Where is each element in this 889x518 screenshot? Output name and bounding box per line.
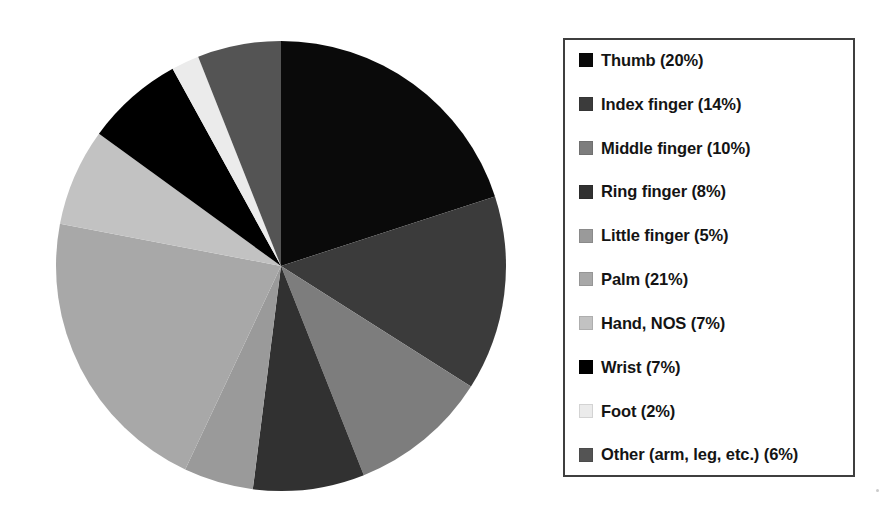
legend-item-label: Palm (21%) xyxy=(601,271,688,288)
legend-item-label: Ring finger (8%) xyxy=(601,183,726,200)
pie-svg xyxy=(55,40,507,493)
legend-item[interactable]: Other (arm, leg, etc.) (6%) xyxy=(579,446,843,463)
legend-item[interactable]: Thumb (20%) xyxy=(579,52,843,69)
legend-swatch-icon xyxy=(579,360,593,374)
pie-chart-figure: Thumb (20%)Index finger (14%)Middle fing… xyxy=(0,0,889,518)
legend-swatch-icon xyxy=(579,316,593,330)
chart-legend: Thumb (20%)Index finger (14%)Middle fing… xyxy=(563,38,855,477)
legend-item[interactable]: Foot (2%) xyxy=(579,403,843,420)
legend-swatch-icon xyxy=(579,272,593,286)
legend-item[interactable]: Ring finger (8%) xyxy=(579,183,843,200)
pie-slice-group xyxy=(56,41,506,491)
legend-swatch-icon xyxy=(579,141,593,155)
legend-item[interactable]: Hand, NOS (7%) xyxy=(579,315,843,332)
pie-chart-plot-area xyxy=(55,40,507,493)
legend-item-label: Little finger (5%) xyxy=(601,227,728,244)
legend-item[interactable]: Middle finger (10%) xyxy=(579,140,843,157)
legend-item-label: Wrist (7%) xyxy=(601,359,680,376)
legend-item-label: Other (arm, leg, etc.) (6%) xyxy=(601,446,798,463)
legend-item-label: Index finger (14%) xyxy=(601,96,741,113)
legend-swatch-icon xyxy=(579,185,593,199)
scan-artifact-dot xyxy=(876,489,879,492)
legend-item[interactable]: Index finger (14%) xyxy=(579,96,843,113)
legend-swatch-icon xyxy=(579,53,593,67)
legend-item-label: Thumb (20%) xyxy=(601,52,703,69)
legend-item-list: Thumb (20%)Index finger (14%)Middle fing… xyxy=(579,52,843,463)
legend-item[interactable]: Palm (21%) xyxy=(579,271,843,288)
legend-item[interactable]: Wrist (7%) xyxy=(579,359,843,376)
legend-item-label: Foot (2%) xyxy=(601,403,675,420)
legend-item[interactable]: Little finger (5%) xyxy=(579,227,843,244)
legend-item-label: Middle finger (10%) xyxy=(601,140,750,157)
legend-swatch-icon xyxy=(579,404,593,418)
legend-swatch-icon xyxy=(579,97,593,111)
legend-swatch-icon xyxy=(579,448,593,462)
legend-item-label: Hand, NOS (7%) xyxy=(601,315,725,332)
legend-swatch-icon xyxy=(579,229,593,243)
